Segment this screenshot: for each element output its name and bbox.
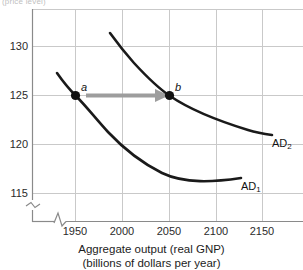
curve-label-ad2: AD2 [272, 137, 292, 149]
data-point-a [71, 91, 80, 100]
x-tick-label-2000: 2000 [102, 225, 142, 237]
curve-label-ad1-text: AD [241, 180, 256, 192]
y-tick-label-125: 125 [2, 89, 28, 101]
y-tick-label-130: 130 [2, 40, 28, 52]
data-point-label-a: a [81, 81, 87, 93]
data-point-b [165, 91, 174, 100]
chart-figure: (price level) [0, 0, 303, 270]
data-point-label-b: b [175, 81, 181, 93]
x-tick-label-2050: 2050 [149, 225, 189, 237]
x-tick-label-2100: 2100 [196, 225, 236, 237]
x-axis-title: Aggregate output (real GNP) [0, 243, 303, 255]
y-tick-label-115: 115 [2, 187, 28, 199]
curve-label-ad1: AD1 [241, 180, 261, 192]
y-tick-label-120: 120 [2, 138, 28, 150]
curve-label-ad2-sub: 2 [287, 142, 291, 151]
x-axis-subtitle: (billions of dollars per year) [0, 257, 303, 269]
x-tick-label-2150: 2150 [242, 225, 282, 237]
curve-label-ad1-sub: 1 [256, 185, 260, 194]
curve-label-ad2-text: AD [272, 137, 287, 149]
x-tick-label-1950: 1950 [55, 225, 95, 237]
